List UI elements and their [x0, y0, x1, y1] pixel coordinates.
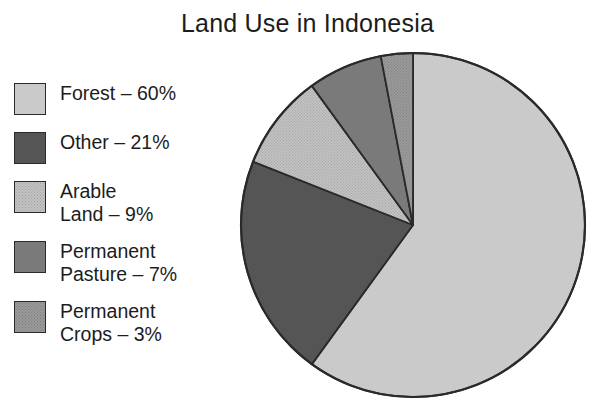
legend-item[interactable]: Permanent Pasture – 7% — [14, 240, 232, 286]
legend-item[interactable]: Arable Land – 9% — [14, 180, 232, 226]
legend-swatch — [14, 132, 46, 164]
legend-label: Permanent Crops – 3% — [60, 300, 162, 346]
pie-svg — [238, 50, 588, 400]
chart-legend: Forest – 60%Other – 21%Arable Land – 9%P… — [14, 82, 232, 360]
legend-label: Other – 21% — [60, 131, 169, 154]
pie-chart-plot-area — [238, 50, 588, 400]
legend-item[interactable]: Other – 21% — [14, 131, 232, 164]
pie-chart-figure: Land Use in Indonesia Forest – 60%Other … — [0, 0, 615, 418]
legend-swatch — [14, 181, 46, 213]
pie-slice-group — [241, 53, 585, 397]
legend-swatch — [14, 83, 46, 115]
legend-label: Forest – 60% — [60, 82, 176, 105]
chart-title: Land Use in Indonesia — [0, 8, 615, 38]
legend-item[interactable]: Forest – 60% — [14, 82, 232, 115]
legend-item[interactable]: Permanent Crops – 3% — [14, 300, 232, 346]
legend-swatch — [14, 301, 46, 333]
legend-label: Arable Land – 9% — [60, 180, 153, 226]
legend-label: Permanent Pasture – 7% — [60, 240, 177, 286]
legend-swatch — [14, 241, 46, 273]
